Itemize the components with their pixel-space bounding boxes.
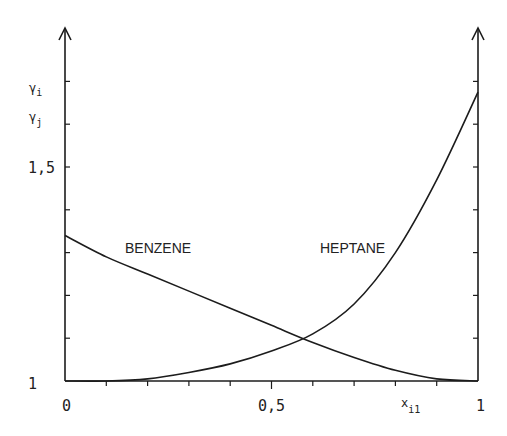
curves [65,92,478,381]
x-tick-label-1: 1 [476,397,485,415]
y-tick-label-1: 1 [28,375,37,393]
y-label-gamma-j: γj [29,110,42,128]
x-axis-label: xi1 [401,396,420,415]
activity-coefficient-chart: γi γj 1,5 1 0 0,5 1 xi1 BENZENE HEPTANE [0,0,507,436]
y-label-gamma-i: γi [29,81,42,98]
x-tick-label-0-5: 0,5 [258,397,285,415]
benzene-curve [65,235,478,381]
y-tick-label-1-5: 1,5 [28,159,55,177]
x-tick-label-0: 0 [62,397,71,415]
heptane-curve [65,92,478,381]
axes [59,28,484,381]
tick-marks [65,81,478,389]
benzene-label: BENZENE [125,240,191,256]
heptane-label: HEPTANE [320,240,385,256]
